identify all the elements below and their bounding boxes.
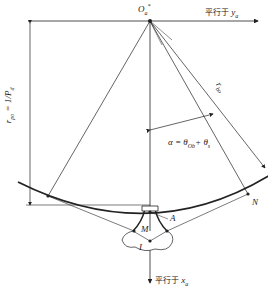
parallel-x-label: 平行于 xa — [155, 276, 188, 287]
point-a-label: A — [170, 214, 176, 223]
point-i-label: I — [139, 243, 142, 252]
angle-label: α = θOb+ θs — [168, 138, 210, 149]
point-n-label: N — [252, 198, 258, 207]
radius-left-label: rpo = 1/Pd — [4, 88, 15, 124]
parallel-y-label: 平行于 ya — [205, 8, 238, 19]
geometry-diagram — [0, 0, 268, 294]
point-m-label: M — [141, 225, 149, 234]
origin-label: Oa* — [138, 3, 151, 16]
